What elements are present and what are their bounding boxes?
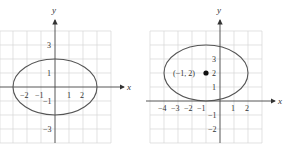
right-ytick: −2 — [208, 125, 217, 134]
left-ytick: −3 — [43, 125, 52, 134]
left-y-label: y — [51, 5, 56, 15]
left-x-label: x — [126, 82, 131, 92]
left-ytick: 3 — [47, 41, 51, 50]
right-xtick: −3 — [171, 104, 180, 113]
left-xtick: 2 — [80, 91, 84, 100]
left-chart: x y −2 −1 1 2 3 1 −1 −3 — [0, 5, 131, 143]
right-xtick: −4 — [158, 104, 167, 113]
center-point — [203, 70, 208, 75]
figure: x y −2 −1 1 2 3 1 −1 −3 x y (−1, 2) −4 −… — [0, 0, 286, 149]
left-ytick: 1 — [47, 69, 51, 78]
right-xtick: 1 — [231, 104, 235, 113]
left-xtick: 1 — [67, 91, 71, 100]
right-xtick: −1 — [197, 104, 206, 113]
left-xtick: −2 — [20, 91, 29, 100]
left-ytick: −1 — [43, 97, 52, 106]
right-y-label: y — [216, 5, 221, 15]
right-xtick: 2 — [245, 104, 249, 113]
right-ytick: 3 — [212, 55, 216, 64]
center-label: (−1, 2) — [173, 69, 195, 78]
right-x-label: x — [277, 96, 282, 106]
right-ytick: 1 — [212, 83, 216, 92]
right-ytick: 2 — [212, 69, 216, 78]
right-ytick: −1 — [208, 111, 217, 120]
right-chart: x y (−1, 2) −4 −3 −2 −1 1 2 3 2 1 −1 −2 — [146, 5, 282, 143]
right-xtick: −2 — [184, 104, 193, 113]
right-grid — [150, 31, 262, 143]
